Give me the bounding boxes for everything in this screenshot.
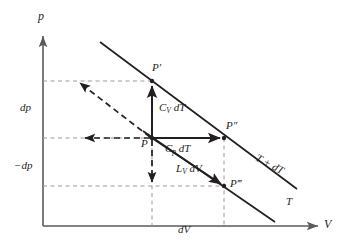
point-label-P-prime: P′: [152, 62, 161, 73]
tick-label-dv: dV: [178, 224, 190, 235]
axis-label-p: p: [38, 10, 44, 22]
tick-label-minus-dp: −dp: [14, 160, 32, 171]
diagram-canvas: [0, 0, 345, 244]
tick-label-dp: dp: [20, 102, 31, 113]
point-label-P-double-prime: P″: [226, 120, 237, 131]
isotherm-label-lower: T: [286, 196, 292, 207]
point-marker-Pppp: [222, 184, 226, 188]
point-label-P-triple-prime: P‴: [230, 178, 241, 189]
axis-label-v: V: [324, 218, 331, 230]
segment-label-cv-dt: CV dT: [159, 102, 185, 113]
segment-label-lv-dv-tail: dV: [187, 162, 202, 174]
segment-label-cp-dt-tail: dT: [176, 142, 190, 154]
point-marker-Ppp: [222, 136, 226, 140]
guide-lines: [43, 81, 224, 226]
segment-label-lv-dv: LV dV: [176, 163, 202, 174]
arrow-dashed-dp-diagonal: [80, 83, 150, 137]
point-marker-P: [150, 136, 154, 140]
pv-diagram-figure: p V dp −dp dV P P′ P″ P‴ CV dT Cp dT LV …: [0, 0, 345, 244]
point-marker-Pp: [150, 79, 154, 83]
segment-label-cv-dt-tail: dT: [171, 101, 185, 113]
segment-label-cp-dt: Cp dT: [165, 143, 190, 154]
point-label-P: P: [141, 138, 148, 149]
